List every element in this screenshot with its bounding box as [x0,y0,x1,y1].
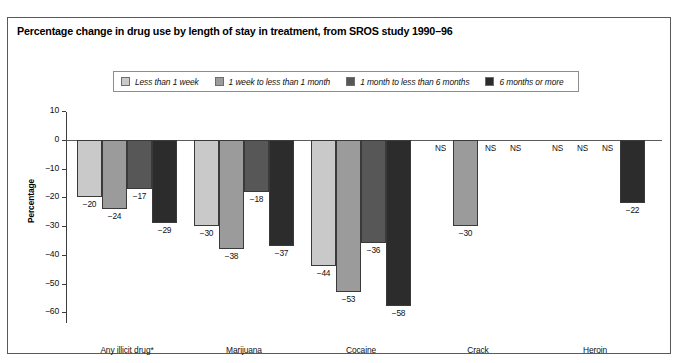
bar-value-label: −37 [263,248,300,258]
y-tick-mark [62,312,66,313]
bar [311,140,336,266]
bar [361,140,386,243]
bar-value-label: −24 [96,211,133,221]
bar-chart-plot: Percentage 100−10−20−30−40−50−60−20−24−1… [0,0,679,363]
y-tick-mark [62,255,66,256]
y-tick-label: 0 [33,134,59,144]
not-significant-label: NS [497,144,534,153]
y-tick-label: −60 [33,306,59,316]
y-tick-mark [62,226,66,227]
bar [269,140,294,246]
bar-value-label: −29 [146,225,183,235]
y-tick-label: −30 [33,220,59,230]
bar [152,140,177,223]
bar-value-label: −53 [330,294,367,304]
bar [127,140,152,189]
bar [336,140,361,292]
bar [620,140,645,203]
bar [244,140,269,192]
bar-value-label: −58 [380,308,417,318]
bar-value-label: −30 [447,228,484,238]
y-tick-label: −50 [33,278,59,288]
y-tick-mark [62,111,66,112]
bar [77,140,102,197]
y-tick-label: −40 [33,249,59,259]
bar-value-label: −38 [213,251,250,261]
bar [194,140,219,226]
x-axis-group-label: Heroin [515,345,675,355]
y-tick-mark [62,197,66,198]
bar-value-label: −22 [614,205,651,215]
bar [386,140,411,306]
y-tick-mark [62,284,66,285]
y-tick-mark [62,140,66,141]
y-axis-line [66,112,67,323]
y-tick-label: −10 [33,163,59,173]
y-tick-mark [62,169,66,170]
y-tick-label: −20 [33,191,59,201]
y-tick-label: 10 [33,105,59,115]
